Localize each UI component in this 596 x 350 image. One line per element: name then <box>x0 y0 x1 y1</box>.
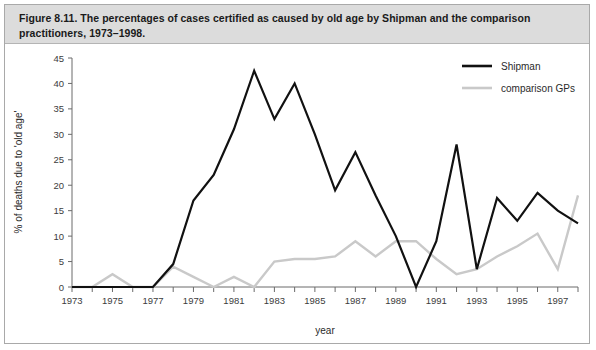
y-tick-label: 25 <box>53 154 64 165</box>
y-tick-label: 20 <box>53 180 64 191</box>
x-tick-label: 1997 <box>547 295 568 306</box>
legend-label-shipman: Shipman <box>501 61 540 72</box>
data-series-group <box>72 71 578 287</box>
y-tick-label: 5 <box>59 256 64 267</box>
x-axis-title: year <box>315 325 335 336</box>
figure-container: Figure 8.11. The percentages of cases ce… <box>0 0 596 350</box>
y-tick-label: 35 <box>53 103 64 114</box>
plot-area: 051015202530354045 197319751977197919811… <box>0 44 596 344</box>
x-tick-label: 1989 <box>385 295 406 306</box>
x-tick-label: 1987 <box>345 295 366 306</box>
x-tick-label: 1979 <box>183 295 204 306</box>
x-tick-label: 1985 <box>304 295 325 306</box>
x-tick-label: 1981 <box>223 295 244 306</box>
y-tick-label: 0 <box>59 282 64 293</box>
line-chart: 051015202530354045 197319751977197919811… <box>0 44 596 344</box>
x-axis-ticks: 1973197519771979198119831985198719891991… <box>61 287 578 306</box>
figure-caption-bar: Figure 8.11. The percentages of cases ce… <box>5 5 589 44</box>
y-tick-label: 10 <box>53 231 64 242</box>
x-tick-label: 1973 <box>61 295 82 306</box>
y-axis-title: % of deaths due to 'old age' <box>13 111 24 234</box>
x-tick-label: 1975 <box>102 295 123 306</box>
x-tick-label: 1983 <box>264 295 285 306</box>
y-tick-label: 30 <box>53 129 64 140</box>
figure-caption-text: Figure 8.11. The percentages of cases ce… <box>19 11 577 40</box>
x-tick-label: 1977 <box>142 295 163 306</box>
y-tick-label: 40 <box>53 78 64 89</box>
y-tick-label: 15 <box>53 205 64 216</box>
legend-label-comparison-gps: comparison GPs <box>501 83 575 94</box>
x-tick-label: 1995 <box>507 295 528 306</box>
y-tick-label: 45 <box>53 53 64 64</box>
y-axis-ticks: 051015202530354045 <box>53 53 72 293</box>
x-tick-label: 1991 <box>426 295 447 306</box>
chart-legend: Shipmancomparison GPs <box>462 61 575 94</box>
x-tick-label: 1993 <box>466 295 487 306</box>
series-line-comparison-gps <box>72 195 578 287</box>
